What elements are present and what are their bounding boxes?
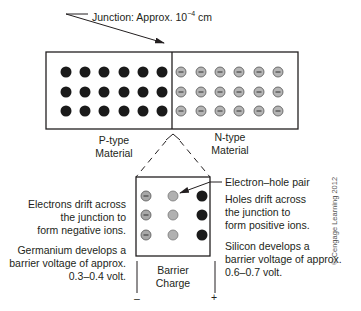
barrier-charge-line2: Charge: [140, 277, 206, 290]
plus-sign: +: [211, 291, 217, 304]
hole-drift-note: Holes drift across the junction to form …: [225, 193, 310, 232]
silicon-note: Silicon develops a barrier voltage of ap…: [225, 240, 342, 279]
p-type-label: P-type Material: [76, 134, 152, 160]
barrier-electron-hole-pairs: [168, 191, 178, 240]
electron-drift-line2: the junction to: [0, 211, 126, 224]
n-type-label: N-type Material: [192, 131, 268, 157]
germanium-note: Germanium develops a barrier voltage of …: [0, 244, 126, 283]
barrier-negative-ions: [141, 191, 151, 240]
barrier-positive-ions: [197, 191, 208, 241]
p-type-label-line2: Material: [76, 147, 152, 160]
germanium-line1: Germanium develops a: [0, 244, 126, 257]
junction-exponent: −4: [187, 10, 195, 17]
barrier-charge-label: Barrier Charge: [140, 264, 206, 290]
copyright-notice: © Cengage Learning 2012: [330, 177, 339, 265]
silicon-line2: barrier voltage of approx.: [225, 253, 342, 266]
silicon-line1: Silicon develops a: [225, 240, 342, 253]
electron-drift-line1: Electrons drift across: [0, 198, 126, 211]
junction-label: Junction: Approx. 10−4 cm: [92, 7, 212, 24]
n-type-label-line1: N-type: [192, 131, 268, 144]
junction-unit: cm: [195, 11, 212, 23]
electron-hole-pair-label: Electron–hole pair: [225, 176, 310, 189]
silicon-line3: 0.6–0.7 volt.: [225, 266, 342, 279]
hole-drift-line3: form positive ions.: [225, 219, 310, 232]
minus-sign: –: [134, 292, 140, 305]
hole-drift-line2: the junction to: [225, 206, 310, 219]
barrier-charge-line1: Barrier: [140, 264, 206, 277]
p-type-label-line1: P-type: [76, 134, 152, 147]
germanium-line3: 0.3–0.4 volt.: [0, 270, 126, 283]
junction-label-text: Junction: Approx. 10: [92, 11, 187, 23]
n-type-label-line2: Material: [192, 144, 268, 157]
hole-drift-line1: Holes drift across: [225, 193, 310, 206]
germanium-line2: barrier voltage of approx.: [0, 257, 126, 270]
electron-drift-line3: form negative ions.: [0, 224, 126, 237]
electron-drift-note: Electrons drift across the junction to f…: [0, 198, 126, 237]
